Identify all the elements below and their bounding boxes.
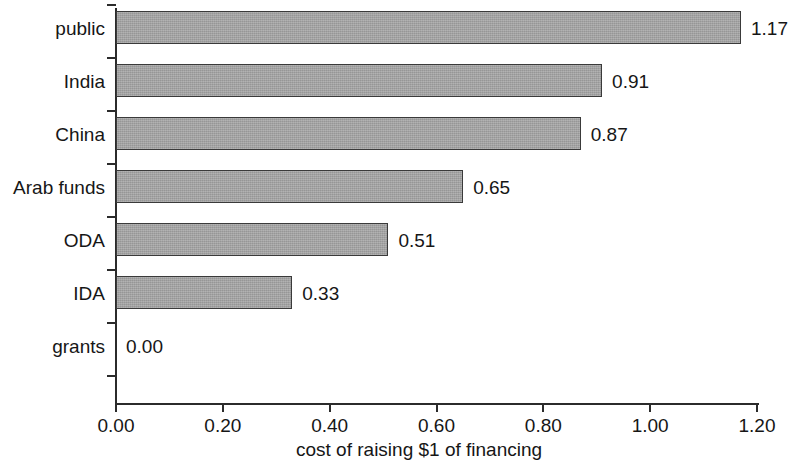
bar: [116, 223, 388, 256]
y-axis-tick: [107, 163, 116, 165]
y-axis-category-label: IDA: [0, 284, 105, 303]
bar-value-label: 0.91: [612, 72, 649, 91]
x-axis-tick: [329, 403, 331, 412]
bar: [116, 11, 741, 44]
x-axis-tick: [115, 403, 117, 412]
y-axis-category-label: ODA: [0, 231, 105, 250]
bar-value-label: 0.87: [591, 125, 628, 144]
bar: [116, 64, 602, 97]
x-axis-title-text: cost of raising $1 of financing: [296, 440, 542, 459]
plot-area: public1.17India0.91China0.87Arab funds0.…: [116, 8, 757, 404]
y-axis-tick: [107, 375, 116, 377]
y-axis-category-label: China: [0, 125, 105, 144]
x-axis-tick: [542, 403, 544, 412]
bar: [116, 276, 292, 309]
x-axis-tick: [756, 403, 758, 412]
x-axis-tick-label: 0.00: [81, 416, 151, 435]
bar: [116, 170, 463, 203]
y-axis-category-label: public: [0, 19, 105, 38]
x-axis-tick: [222, 403, 224, 412]
x-axis-tick-label: 1.00: [615, 416, 685, 435]
x-axis-tick-label: 0.80: [508, 416, 578, 435]
y-axis-tick: [107, 216, 116, 218]
bar-value-label: 0.65: [473, 178, 510, 197]
bar: [116, 117, 581, 150]
x-axis-tick-label: 0.60: [402, 416, 472, 435]
bar-value-label: 0.33: [302, 284, 339, 303]
y-axis-category-label: grants: [0, 337, 105, 356]
x-axis-tick-label: 0.20: [188, 416, 258, 435]
y-axis-tick: [107, 4, 116, 6]
bar-chart: public1.17India0.91China0.87Arab funds0.…: [0, 0, 794, 464]
y-axis-tick: [107, 110, 116, 112]
y-axis-tick: [107, 322, 116, 324]
x-axis-tick-label: 0.40: [295, 416, 365, 435]
x-axis-tick: [436, 403, 438, 412]
bar-value-label: 0.51: [398, 231, 435, 250]
y-axis-category-label: India: [0, 72, 105, 91]
y-axis-tick: [107, 269, 116, 271]
y-axis-tick: [107, 57, 116, 59]
x-axis-tick: [649, 403, 651, 412]
y-axis-category-label: Arab funds: [0, 178, 105, 197]
x-axis-tick-label: 1.20: [722, 416, 792, 435]
bar-value-label: 1.17: [751, 19, 788, 38]
bar-value-label: 0.00: [126, 337, 163, 356]
